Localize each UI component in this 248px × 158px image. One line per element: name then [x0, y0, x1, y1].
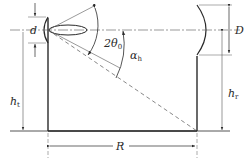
label-ht: ht [10, 96, 20, 109]
label-D: D [235, 25, 244, 36]
beam-upper-edge [48, 5, 96, 30]
line-of-sight [48, 30, 197, 131]
label-R: R [116, 141, 124, 152]
label-beamwidth: 2θ0 [104, 38, 122, 51]
antenna-geometry-diagram: d D 2θ0 αh ht hr R [0, 0, 248, 158]
beamwidth-arc [88, 8, 98, 55]
diagram-canvas [0, 0, 248, 158]
label-d: d [30, 25, 37, 36]
label-hr: hr [228, 88, 238, 101]
label-alpha-h: αh [130, 50, 142, 63]
